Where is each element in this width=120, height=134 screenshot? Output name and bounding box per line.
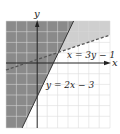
solid-line-label: y = 2x − 3 [46, 81, 94, 90]
graph [0, 0, 120, 134]
y-axis-label: y [34, 9, 40, 19]
dashed-line-label: x = 3y − 1 [67, 51, 115, 60]
